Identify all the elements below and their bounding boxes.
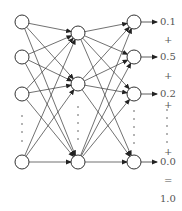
- connection-edge: [84, 36, 127, 54]
- output-neuron: [127, 15, 141, 29]
- connections: [25, 23, 132, 162]
- ellipsis-dot: [166, 141, 168, 143]
- connection-edge: [85, 23, 127, 31]
- connection-edge: [25, 63, 74, 156]
- ellipsis-dot: [21, 140, 23, 142]
- equals-sign: =: [164, 176, 172, 186]
- ellipsis-dot: [21, 123, 23, 125]
- output-arrows: [141, 22, 157, 162]
- hidden-neuron: [71, 77, 85, 91]
- connection-edge: [29, 23, 71, 31]
- ellipsis-dot: [21, 115, 23, 117]
- hidden-neuron: [71, 155, 85, 169]
- ellipsis-dot: [133, 118, 135, 120]
- ellipsis-dots: [21, 106, 168, 144]
- ellipsis-dot: [77, 130, 79, 132]
- ellipsis-dot: [166, 125, 168, 127]
- connection-edge: [82, 90, 130, 157]
- connection-edge: [82, 99, 129, 156]
- ellipsis-dot: [166, 117, 168, 119]
- ellipsis-dot: [77, 106, 79, 108]
- ellipsis-dot: [166, 133, 168, 135]
- output-neuron: [127, 50, 141, 64]
- ellipsis-dot: [77, 122, 79, 124]
- connection-edge: [26, 90, 74, 157]
- connection-edge: [81, 39, 131, 155]
- connection-edge: [81, 63, 130, 156]
- connection-edge: [83, 38, 130, 89]
- connection-edge: [27, 38, 74, 89]
- input-neuron: [15, 155, 29, 169]
- connection-edge: [27, 27, 74, 79]
- connection-edge: [25, 39, 75, 155]
- input-neuron: [15, 15, 29, 29]
- ellipsis-dot: [77, 138, 79, 140]
- ellipsis-dot: [77, 114, 79, 116]
- output-value-1: 0.1: [160, 17, 176, 27]
- ellipsis-dot: [133, 110, 135, 112]
- neural-network-diagram: 0.1 + 0.5 + 0.2 + + 0.0 = 1.0: [0, 0, 182, 211]
- connection-edge: [83, 27, 130, 79]
- output-value-4: 0.0: [160, 157, 176, 167]
- ellipsis-dot: [133, 134, 135, 136]
- connection-edge: [28, 36, 71, 54]
- network-graph: [0, 0, 182, 211]
- output-neuron: [127, 155, 141, 169]
- sum-value: 1.0: [160, 194, 176, 204]
- plus-sign-2: +: [164, 71, 172, 81]
- connection-edge: [26, 99, 73, 156]
- output-neuron: [127, 87, 141, 101]
- hidden-neuron: [71, 26, 85, 40]
- plus-sign-1: +: [164, 35, 172, 45]
- ellipsis-dot: [21, 131, 23, 133]
- output-value-2: 0.5: [160, 52, 176, 62]
- plus-sign-3: +: [164, 100, 172, 110]
- input-neuron: [15, 50, 29, 64]
- ellipsis-dot: [133, 126, 135, 128]
- output-value-3: 0.2: [160, 89, 176, 99]
- input-neuron: [15, 87, 29, 101]
- ellipsis-dot: [133, 142, 135, 144]
